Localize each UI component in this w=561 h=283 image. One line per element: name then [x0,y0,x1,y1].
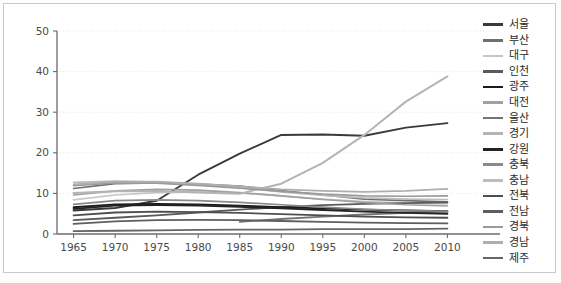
legend-swatch-icon [483,117,503,120]
x-tick-label: 1990 [268,241,295,253]
chart-screenshot: 0102030405019651970197519801985199019952… [0,0,561,283]
legend-item-경남[interactable]: 경남 [483,235,555,251]
legend-item-인천[interactable]: 인천 [483,64,555,80]
legend-item-서울[interactable]: 서울 [483,17,555,33]
x-tick-label: 1980 [185,241,212,253]
series-line-서울 [74,123,448,210]
legend-item-광주[interactable]: 광주 [483,79,555,95]
line-chart: 0102030405019651970197519801985199019952… [0,0,561,283]
legend-label: 부산 [509,35,529,46]
legend-swatch-icon [483,23,503,26]
legend-label: 전북 [509,190,529,201]
legend-item-충북[interactable]: 충북 [483,157,555,173]
legend-item-대구[interactable]: 대구 [483,48,555,64]
x-tick-label: 2005 [392,241,419,253]
legend-item-강원[interactable]: 강원 [483,141,555,157]
legend-label: 대전 [509,97,529,108]
legend-label: 서울 [509,19,529,30]
x-tick-label: 1965 [60,241,87,253]
legend-label: 울산 [509,113,529,124]
legend-label: 전남 [509,206,529,217]
legend-swatch-icon [483,132,503,135]
legend-swatch-icon [483,210,503,213]
y-tick-label: 50 [36,25,49,37]
x-tick-label: 1975 [143,241,170,253]
legend-swatch-icon [483,86,503,89]
legend-swatch-icon [483,70,503,73]
legend-swatch-icon [483,55,503,58]
legend-swatch-icon [483,148,503,151]
legend-label: 인천 [509,66,529,77]
series-line-전남 [74,220,448,224]
plot-area: 0102030405019651970197519801985199019952… [0,0,561,283]
legend-item-부산[interactable]: 부산 [483,33,555,49]
series-line-제주 [74,229,448,231]
legend-swatch-icon [483,39,503,42]
legend-label: 대구 [509,50,529,61]
legend-item-충남[interactable]: 충남 [483,173,555,189]
legend-label: 충남 [509,175,529,186]
x-tick-label: 1970 [102,241,129,253]
legend-swatch-icon [483,257,503,260]
legend-swatch-icon [483,101,503,104]
y-tick-label: 10 [36,187,49,199]
x-tick-label: 2000 [351,241,378,253]
legend-label: 광주 [509,81,529,92]
legend-item-경북[interactable]: 경북 [483,219,555,235]
y-tick-label: 20 [36,146,49,158]
x-tick-label: 1985 [226,241,253,253]
legend-label: 경북 [509,221,529,232]
legend-label: 경기 [509,128,529,139]
y-tick-label: 0 [42,228,49,240]
legend-label: 충북 [509,159,529,170]
y-tick-label: 30 [36,106,49,118]
legend-item-경기[interactable]: 경기 [483,126,555,142]
y-tick-label: 40 [36,65,49,77]
x-tick-label: 2010 [434,241,461,253]
legend-swatch-icon [483,179,503,182]
chart-legend: 서울부산대구인천광주대전울산경기강원충북충남전북전남경북경남제주 [483,17,555,267]
legend-swatch-icon [483,195,503,198]
legend-label: 제주 [509,253,529,264]
legend-label: 경남 [509,237,529,248]
series-line-경기 [74,76,448,193]
legend-item-대전[interactable]: 대전 [483,95,555,111]
legend-item-울산[interactable]: 울산 [483,110,555,126]
legend-swatch-icon [483,226,503,229]
legend-item-전북[interactable]: 전북 [483,188,555,204]
x-tick-label: 1995 [309,241,336,253]
legend-swatch-icon [483,241,503,244]
legend-swatch-icon [483,163,503,166]
legend-item-제주[interactable]: 제주 [483,250,555,266]
legend-item-전남[interactable]: 전남 [483,204,555,220]
legend-label: 강원 [509,144,529,155]
